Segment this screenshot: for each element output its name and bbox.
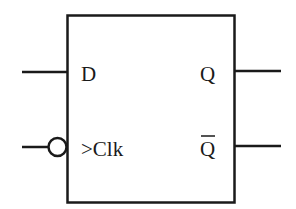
clk-label: >Clk	[81, 137, 124, 161]
flip-flop-body	[68, 16, 235, 203]
q-bar-label: Q	[200, 137, 215, 161]
q-label: Q	[200, 62, 215, 86]
inversion-bubble-icon	[49, 138, 67, 156]
flip-flop-diagram: D >Clk Q Q	[0, 0, 296, 209]
d-label: D	[81, 62, 96, 86]
